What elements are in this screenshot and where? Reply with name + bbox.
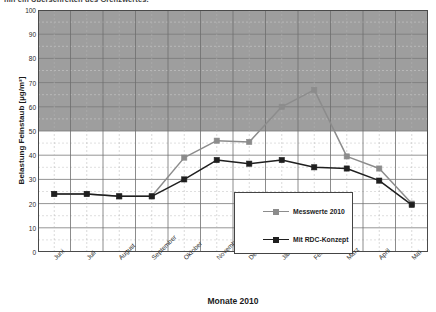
y-tick-label: 20 [12, 200, 36, 207]
y-tick-label: 40 [12, 152, 36, 159]
legend-marker-line-icon [263, 207, 289, 216]
data-point [377, 178, 382, 183]
y-tick-label: 30 [12, 176, 36, 183]
y-tick-label: 50 [12, 128, 36, 135]
data-point [149, 194, 154, 199]
data-point [182, 177, 187, 182]
data-point [247, 161, 252, 166]
y-tick-label: 90 [12, 31, 36, 38]
legend-label: Messwerte 2010 [293, 208, 345, 215]
legend-label: Mit RDC-Konzept [293, 236, 349, 243]
plot-area [38, 10, 428, 252]
legend-item-rdc-konzept[interactable]: Mit RDC-Konzept [263, 235, 349, 244]
data-point [279, 104, 284, 109]
data-point [279, 157, 284, 162]
cutoff-body-text: hin ein Überschreiten des Grenzwertes. [4, 0, 304, 5]
y-tick-label: 60 [12, 103, 36, 110]
x-axis-tick-labels: JuniJuliAugustSeptemberOktoberNovemberDe… [38, 254, 428, 296]
data-point [312, 165, 317, 170]
data-point [409, 202, 414, 207]
data-point [182, 155, 187, 160]
data-point [214, 157, 219, 162]
data-point [117, 194, 122, 199]
legend-marker-line-icon [263, 235, 289, 244]
data-point [344, 154, 349, 159]
legend-item-messwerte[interactable]: Messwerte 2010 [263, 207, 345, 216]
data-point [377, 166, 382, 171]
y-tick-label: 0 [12, 249, 36, 256]
data-point [214, 138, 219, 143]
x-axis-title: Monate 2010 [38, 296, 428, 306]
data-point [84, 191, 89, 196]
y-tick-label: 10 [12, 224, 36, 231]
y-axis-tick-labels: 0102030405060708090100 [10, 10, 36, 252]
y-tick-label: 100 [12, 7, 36, 14]
chart-figure: Belastung Feinstaub [µg/m³] 010203040506… [0, 8, 436, 310]
chart-canvas [38, 10, 428, 252]
y-tick-label: 70 [12, 79, 36, 86]
data-point [247, 139, 252, 144]
data-point [52, 191, 57, 196]
y-tick-label: 80 [12, 55, 36, 62]
chart-legend: Messwerte 2010 Mit RDC-Konzept [234, 192, 353, 254]
data-point [344, 166, 349, 171]
data-point [312, 87, 317, 92]
